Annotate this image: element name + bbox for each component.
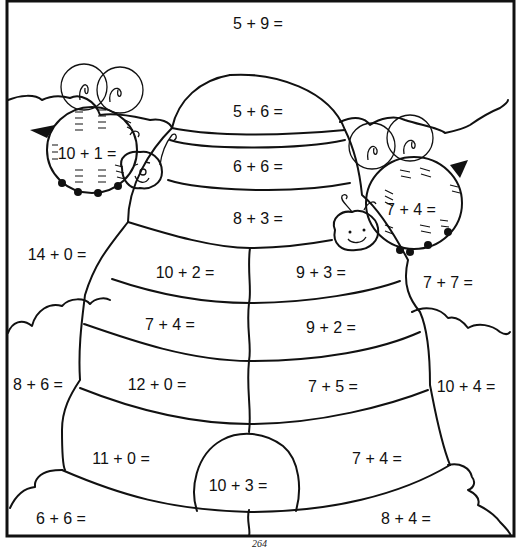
equation-hive-door: 10 + 3 =: [209, 477, 268, 495]
equation-bottom-right-ground: 8 + 4 =: [381, 510, 431, 528]
equation-hive-band-5-right: 7 + 5 =: [308, 378, 358, 396]
right-mid-cloud: [412, 308, 510, 334]
equation-top-sky: 5 + 9 =: [233, 15, 283, 33]
bottom-right-cloud: [448, 464, 511, 536]
page-number: 264: [0, 538, 519, 549]
equation-right-cloud: 10 + 4 =: [437, 378, 496, 396]
bottom-left-cloud: [10, 470, 62, 508]
hive-band-line-1: [170, 140, 345, 148]
right-bee: [334, 115, 468, 256]
hive-door: [194, 434, 299, 511]
equation-hive-band-3-left: 10 + 2 =: [156, 264, 215, 282]
equation-right-sky: 7 + 7 =: [423, 274, 473, 292]
equation-hive-band-4-right: 9 + 2 =: [306, 319, 356, 337]
equation-left-sky: 14 + 0 =: [28, 246, 87, 264]
equation-left-cloud: 8 + 6 =: [13, 376, 63, 394]
equation-right-bee: 7 + 4 =: [386, 201, 436, 219]
equation-hive-band-4-left: 7 + 4 =: [145, 316, 195, 334]
equation-hive-band-5-left: 12 + 0 =: [128, 376, 187, 394]
hive-dome-curve: [172, 128, 345, 134]
equation-bottom-left-ground: 6 + 6 =: [36, 510, 86, 528]
equation-left-bee: 10 + 1 =: [58, 145, 117, 163]
equation-hive-band-3-right: 9 + 3 =: [296, 264, 346, 282]
coloring-worksheet: 5 + 9 = 5 + 6 = 6 + 6 = 8 + 3 = 10 + 1 =…: [0, 0, 519, 549]
left-top-cloud: [8, 96, 172, 128]
hive-band-line-2: [168, 180, 350, 190]
hive-band-line-4: [112, 279, 400, 303]
hive-band-line-5: [84, 324, 420, 361]
equation-hive-bottom-right: 7 + 4 =: [352, 450, 402, 468]
equation-hive-dome: 5 + 6 =: [233, 103, 283, 121]
worksheet-frame: [7, 1, 514, 536]
hive-band-line-3: [128, 222, 332, 248]
equation-hive-band-2: 8 + 3 =: [233, 210, 283, 228]
equation-hive-band-1: 6 + 6 =: [233, 158, 283, 176]
left-bee: [30, 64, 176, 197]
right-top-cloud: [340, 100, 508, 133]
equation-hive-bottom-left: 11 + 0 =: [92, 450, 150, 468]
